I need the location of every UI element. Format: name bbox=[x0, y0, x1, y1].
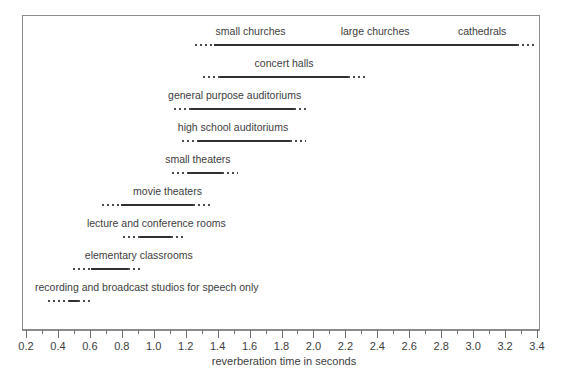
x-axis-minor-tick bbox=[425, 330, 426, 334]
range-bar-dotted-left bbox=[102, 204, 121, 206]
x-axis-major-tick bbox=[537, 330, 538, 338]
chart-row: recording and broadcast studios for spee… bbox=[23, 281, 539, 313]
range-bar-dotted-right bbox=[78, 300, 91, 302]
range-bar-dotted-left bbox=[195, 44, 214, 46]
range-bar bbox=[203, 74, 367, 80]
x-axis-minor-tick bbox=[234, 330, 235, 334]
x-axis-major-tick bbox=[377, 330, 378, 338]
range-bar bbox=[172, 170, 237, 176]
x-axis-tick-label: 0.6 bbox=[82, 340, 97, 352]
x-axis-minor-tick bbox=[521, 330, 522, 334]
x-axis-major-tick bbox=[505, 330, 506, 338]
range-bar bbox=[174, 106, 307, 112]
range-bar-dotted-right bbox=[348, 76, 367, 78]
range-bar-dotted-right bbox=[193, 204, 211, 206]
range-bar-dotted-left bbox=[48, 300, 69, 302]
range-bar-dotted-right bbox=[222, 172, 238, 174]
chart-row: concert halls bbox=[23, 57, 539, 89]
chart-row: elementary classrooms bbox=[23, 249, 539, 281]
range-label: small churches bbox=[216, 25, 286, 37]
x-axis-minor-tick bbox=[202, 330, 203, 334]
x-axis-minor-tick bbox=[457, 330, 458, 334]
x-axis-tick-label: 2.4 bbox=[370, 340, 385, 352]
range-bar bbox=[102, 202, 211, 208]
x-axis-tick-label: 2.2 bbox=[338, 340, 353, 352]
x-axis-tick-label: 3.2 bbox=[497, 340, 512, 352]
x-axis-minor-tick bbox=[297, 330, 298, 334]
range-bar-dotted-right bbox=[517, 44, 536, 46]
x-axis: 0.20.40.60.81.01.21.41.61.82.02.22.42.62… bbox=[22, 330, 540, 331]
range-label: general purpose auditoriums bbox=[168, 89, 301, 101]
x-axis-tick-label: 2.6 bbox=[402, 340, 417, 352]
range-bar-solid bbox=[188, 172, 222, 174]
range-bar bbox=[73, 266, 142, 272]
x-axis-tick-label: 2.8 bbox=[434, 340, 449, 352]
x-axis-minor-tick bbox=[106, 330, 107, 334]
range-bar-dotted-right bbox=[294, 108, 307, 110]
x-axis-tick-label: 3.4 bbox=[529, 340, 544, 352]
range-bar-dotted-left bbox=[182, 140, 198, 142]
range-bar-solid bbox=[121, 204, 193, 206]
x-axis-minor-tick bbox=[266, 330, 267, 334]
x-axis-major-tick bbox=[282, 330, 283, 338]
range-bar bbox=[195, 42, 537, 48]
range-bar-dotted-right bbox=[171, 236, 185, 238]
range-bar-dotted-right bbox=[290, 140, 306, 142]
range-bar-dotted-left bbox=[174, 108, 192, 110]
chart-row: movie theaters bbox=[23, 185, 539, 217]
reverberation-time-chart: small churcheslarge churchescathedralsco… bbox=[0, 0, 568, 391]
x-axis-major-tick bbox=[409, 330, 410, 338]
x-axis-minor-tick bbox=[329, 330, 330, 334]
chart-row: high school auditoriums bbox=[23, 121, 539, 153]
range-bar-dotted-left bbox=[203, 76, 221, 78]
range-label: lecture and conference rooms bbox=[87, 217, 226, 229]
x-axis-major-tick bbox=[473, 330, 474, 338]
x-axis-major-tick bbox=[58, 330, 59, 338]
chart-row: small churcheslarge churchescathedrals bbox=[23, 25, 539, 57]
x-axis-major-tick bbox=[250, 330, 251, 338]
x-axis-major-tick bbox=[345, 330, 346, 338]
range-bar-dotted-left bbox=[123, 236, 141, 238]
range-bar-solid bbox=[69, 300, 79, 302]
x-axis-minor-tick bbox=[489, 330, 490, 334]
x-axis-major-tick bbox=[186, 330, 187, 338]
x-axis-minor-tick bbox=[138, 330, 139, 334]
x-axis-major-tick bbox=[441, 330, 442, 338]
x-axis-minor-tick bbox=[393, 330, 394, 334]
x-axis-tick-label: 1.0 bbox=[146, 340, 161, 352]
x-axis-minor-tick bbox=[170, 330, 171, 334]
x-axis-tick-label: 1.8 bbox=[274, 340, 289, 352]
x-axis-major-tick bbox=[26, 330, 27, 338]
x-axis-tick-label: 0.4 bbox=[50, 340, 65, 352]
range-label: recording and broadcast studios for spee… bbox=[35, 281, 259, 293]
range-bar-dotted-left bbox=[73, 268, 91, 270]
range-label: cathedrals bbox=[458, 25, 506, 37]
range-bar-solid bbox=[198, 140, 291, 142]
x-axis-minor-tick bbox=[42, 330, 43, 334]
x-axis-major-tick bbox=[90, 330, 91, 338]
range-bar-solid bbox=[191, 108, 293, 110]
range-label: elementary classrooms bbox=[85, 249, 193, 261]
range-bar-solid bbox=[220, 76, 348, 78]
x-axis-title: reverberation time in seconds bbox=[0, 355, 568, 367]
range-bar-dotted-left bbox=[172, 172, 188, 174]
range-bar-dotted-right bbox=[128, 268, 142, 270]
x-axis-tick-label: 0.8 bbox=[114, 340, 129, 352]
x-axis-tick-label: 1.6 bbox=[242, 340, 257, 352]
x-axis-major-tick bbox=[122, 330, 123, 338]
x-axis-tick-label: 0.2 bbox=[18, 340, 33, 352]
x-axis-minor-tick bbox=[361, 330, 362, 334]
x-axis-tick-label: 1.2 bbox=[178, 340, 193, 352]
x-axis-major-tick bbox=[154, 330, 155, 338]
range-label: large churches bbox=[341, 25, 410, 37]
range-bar bbox=[123, 234, 185, 240]
x-axis-tick-label: 3.0 bbox=[465, 340, 480, 352]
range-label: movie theaters bbox=[133, 185, 202, 197]
range-bar bbox=[48, 298, 91, 304]
x-axis-major-tick bbox=[313, 330, 314, 338]
range-bar-solid bbox=[214, 44, 517, 46]
range-label: small theaters bbox=[165, 153, 230, 165]
plot-frame: small churcheslarge churchescathedralsco… bbox=[22, 15, 540, 330]
range-label: high school auditoriums bbox=[178, 121, 288, 133]
range-label: concert halls bbox=[255, 57, 314, 69]
